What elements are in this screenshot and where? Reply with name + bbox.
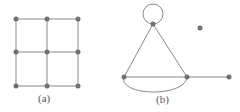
figure-label-b: (b) bbox=[156, 93, 169, 105]
figure-label-a: (a) bbox=[38, 92, 50, 104]
graph-figure bbox=[0, 0, 240, 112]
graph-b-edges bbox=[124, 4, 229, 92]
